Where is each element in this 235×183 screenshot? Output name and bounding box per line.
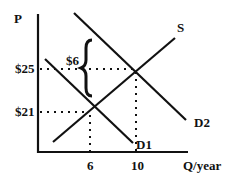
qty-label-10: 10 bbox=[131, 159, 144, 172]
price-gap-label: $6 bbox=[66, 54, 79, 67]
y-axis-label: P bbox=[14, 12, 22, 25]
supply-demand-diagram bbox=[0, 0, 235, 183]
qty-label-6: 6 bbox=[87, 159, 94, 172]
price-label-21: $21 bbox=[15, 105, 35, 118]
demand-d2-label: D2 bbox=[194, 116, 210, 129]
x-axis-label: Q/year bbox=[183, 159, 221, 172]
price-label-25: $25 bbox=[15, 62, 35, 75]
supply-label: S bbox=[177, 21, 184, 34]
demand-d1-label: D1 bbox=[136, 138, 152, 151]
